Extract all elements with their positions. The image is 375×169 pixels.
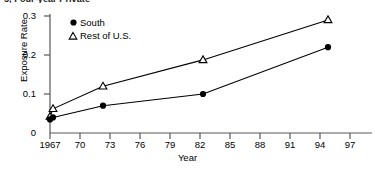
legend-label-south: South xyxy=(80,16,105,29)
filled-circle-icon xyxy=(66,16,80,29)
data-point-south-1 xyxy=(50,114,56,120)
legend-item-south: South xyxy=(66,16,131,29)
open-triangle-icon xyxy=(66,29,80,42)
data-point-rest-of-us-4 xyxy=(324,16,332,23)
y-tick-marks xyxy=(44,16,50,94)
x-tick-marks xyxy=(50,133,350,139)
data-point-south-3 xyxy=(200,91,206,97)
chart-figure: 5, Four-year Private Exposure Rate Year … xyxy=(0,0,375,169)
plot-area xyxy=(0,0,375,169)
chart-legend: South Rest of U.S. xyxy=(66,16,131,42)
data-point-south-4 xyxy=(325,44,331,50)
series-south xyxy=(47,44,331,122)
legend-label-rest-of-us: Rest of U.S. xyxy=(80,29,131,42)
data-point-south-2 xyxy=(100,103,106,109)
legend-item-rest-of-us: Rest of U.S. xyxy=(66,29,131,42)
